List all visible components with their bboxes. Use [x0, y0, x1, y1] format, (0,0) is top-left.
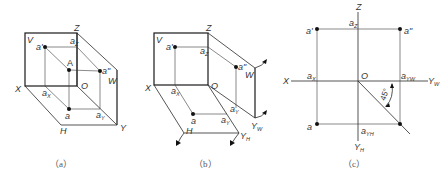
panel-a: V Z X O W H Y A a' a" a aZ aX aY （a）: [14, 23, 127, 169]
label-az: aZ: [70, 36, 79, 47]
projection-diagram: V Z X O W H Y A a' a" a aZ aX aY （a）: [0, 0, 445, 186]
label-a-prime: a': [306, 26, 313, 36]
label-yh: YH: [354, 142, 364, 153]
label-h: H: [60, 126, 67, 136]
label-y: Y: [120, 123, 127, 133]
label-a-dprime: a": [102, 66, 111, 76]
label-a-dprime: a": [238, 62, 247, 72]
label-yh: YH: [240, 131, 250, 142]
label-x: X: [282, 76, 290, 86]
label-z: Z: [73, 23, 80, 33]
label-x: X: [14, 84, 22, 94]
panel-c: Z X O YW YH a' a" a aZ aX aYW aYH 45° （c…: [282, 2, 440, 169]
label-o: O: [361, 71, 368, 81]
label-ax: aX: [42, 88, 51, 99]
point-A: [67, 68, 71, 72]
label-z: Z: [355, 2, 362, 12]
label-h: H: [186, 126, 193, 136]
label-yw: YW: [251, 121, 263, 132]
point-a-prime: [43, 45, 47, 49]
label-z: Z: [205, 23, 212, 33]
label-w: W: [245, 70, 255, 80]
label-a: a: [65, 111, 70, 121]
point-diagonal: [398, 122, 402, 126]
point-a-prime: [173, 45, 177, 49]
label-A: A: [67, 58, 73, 68]
label-ax: aX: [307, 71, 316, 82]
label-ax: aX: [171, 86, 180, 97]
label-ayh: aYH: [361, 126, 374, 137]
caption-a: （a）: [50, 159, 72, 169]
label-a-prime: a': [36, 42, 43, 52]
label-a: a: [191, 116, 196, 126]
caption-b: （b）: [194, 159, 217, 169]
label-a-dprime: a": [404, 26, 413, 36]
panel-b: V Z X O W H YW YH a' a" a aZ aX aY aY （b…: [144, 23, 267, 169]
w-plane-top: [208, 33, 255, 68]
point-a-prime: [315, 27, 319, 31]
label-az: aZ: [349, 18, 358, 29]
point-a-dprime: [398, 27, 402, 31]
label-a: a: [307, 122, 312, 132]
point-a: [315, 122, 319, 126]
v-plane: [154, 33, 208, 85]
label-x: X: [144, 83, 152, 93]
label-a-prime: a': [166, 42, 173, 52]
label-o: O: [211, 81, 218, 91]
label-yw: YW: [428, 76, 440, 87]
label-v: V: [27, 35, 34, 45]
caption-c: （c）: [343, 159, 365, 169]
label-o: O: [81, 81, 88, 91]
label-ayw: aYW: [401, 71, 416, 82]
z-axis-edge: [77, 33, 117, 70]
label-angle: 45°: [378, 87, 391, 101]
label-v: V: [156, 35, 163, 45]
